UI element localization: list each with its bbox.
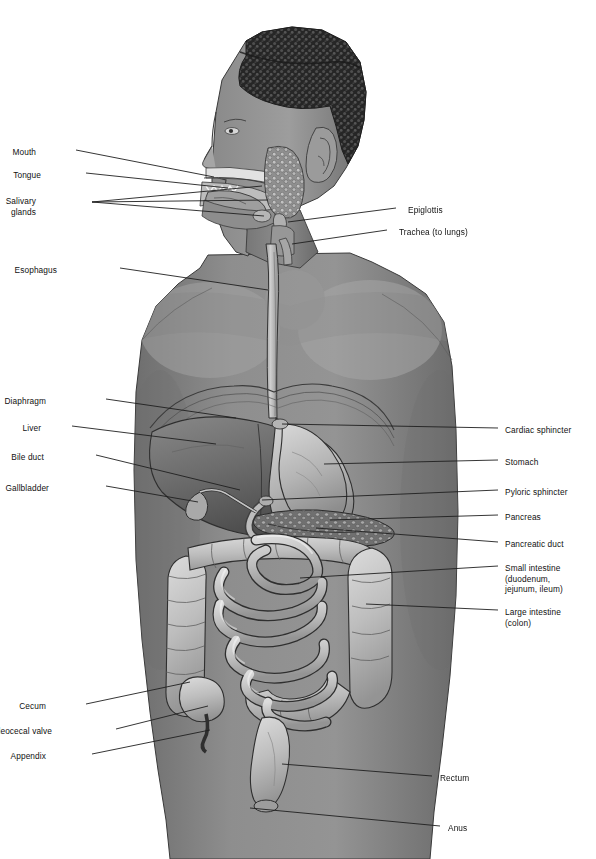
label-salivary-glands: Salivary glands	[6, 196, 36, 217]
label-stomach: Stomach	[505, 457, 538, 468]
label-cecum: Cecum	[19, 701, 46, 712]
label-trachea: Trachea (to lungs)	[399, 227, 468, 238]
label-small-intestine: Small intestine (duodenum, jejunum, ileu…	[505, 563, 563, 595]
pyloric-sphincter-organ	[259, 496, 273, 506]
cecum-organ	[179, 677, 224, 722]
label-mouth: Mouth	[12, 147, 36, 158]
label-gallbladder: Gallbladder	[5, 483, 49, 494]
label-bile-duct: Bile duct	[11, 452, 44, 463]
label-ileocecal-valve: Ileocecal valve	[0, 726, 52, 737]
label-pancreas: Pancreas	[505, 512, 541, 523]
label-tongue: Tongue	[13, 170, 41, 181]
label-liver: Liver	[23, 423, 41, 434]
label-cardiac-sphincter: Cardiac sphincter	[505, 425, 571, 436]
label-esophagus: Esophagus	[15, 265, 57, 276]
label-epiglottis: Epiglottis	[408, 205, 443, 216]
label-diaphragm: Diaphragm	[5, 396, 46, 407]
label-large-intestine: Large intestine (colon)	[505, 607, 561, 628]
label-anus: Anus	[448, 823, 467, 834]
label-pancreatic-duct: Pancreatic duct	[505, 539, 564, 550]
digestive-system-diagram: MouthTongueSalivary glandsEsophagusDiaph…	[0, 0, 596, 859]
label-appendix: Appendix	[11, 751, 46, 762]
label-rectum: Rectum	[440, 773, 469, 784]
label-pyloric-sphincter: Pyloric sphincter	[505, 487, 568, 498]
